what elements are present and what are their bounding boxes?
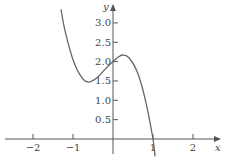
y-tick-label: 2.5 xyxy=(95,37,111,48)
x-ticks: −2−112 xyxy=(26,134,197,153)
y-tick-label: 0.5 xyxy=(95,114,111,125)
y-axis-arrow-icon xyxy=(110,4,116,11)
y-ticks: 0.51.01.52.02.53.0 xyxy=(95,17,118,125)
x-tick-label: 2 xyxy=(190,142,196,153)
y-tick-label: 1.0 xyxy=(95,95,111,106)
x-axis-label: x xyxy=(215,142,221,153)
y-axis-label: y xyxy=(102,1,109,12)
x-tick-label: −2 xyxy=(26,142,41,153)
y-tick-label: 3.0 xyxy=(95,17,111,28)
x-tick-label: −1 xyxy=(66,142,81,153)
chart: −2−112 0.51.01.52.02.53.0 x y xyxy=(0,0,225,161)
axes xyxy=(5,4,221,154)
